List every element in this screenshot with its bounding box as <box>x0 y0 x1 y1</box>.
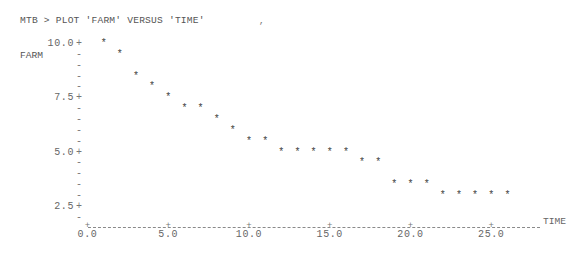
data-point: * <box>198 104 204 114</box>
y-tick-minus: - <box>76 115 82 125</box>
data-point: * <box>504 191 510 201</box>
data-point: * <box>311 148 317 158</box>
x-tick-label: 0.0 <box>78 230 98 240</box>
data-point: * <box>327 148 333 158</box>
y-tick-plus: + <box>76 39 82 49</box>
data-point: * <box>472 191 478 201</box>
data-point: * <box>359 158 365 168</box>
data-point: * <box>278 148 284 158</box>
y-tick-label: 2.5 <box>40 202 74 212</box>
y-tick-minus: - <box>76 158 82 168</box>
data-point: * <box>343 148 349 158</box>
data-point: * <box>488 191 494 201</box>
data-point: * <box>214 115 220 125</box>
y-tick-plus: + <box>76 202 82 212</box>
data-point: * <box>407 180 413 190</box>
y-tick-minus: - <box>76 61 82 71</box>
x-axis-label: TIME <box>543 217 566 227</box>
y-tick-plus: + <box>76 148 82 158</box>
y-axis-label: FARM <box>20 51 43 61</box>
y-tick-plus: + <box>76 93 82 103</box>
y-tick-minus: - <box>76 169 82 179</box>
y-tick-minus: - <box>76 191 82 201</box>
data-point: * <box>230 126 236 136</box>
x-tick-label: 5.0 <box>158 230 178 240</box>
data-point: * <box>117 50 123 60</box>
x-axis-line <box>88 227 540 228</box>
x-tick-label: 25.0 <box>478 230 504 240</box>
data-point: * <box>294 148 300 158</box>
x-tick-label: 20.0 <box>397 230 423 240</box>
command-line: MTB > PLOT 'FARM' VERSUS 'TIME' <box>20 16 205 26</box>
data-point: * <box>246 137 252 147</box>
data-point: * <box>391 180 397 190</box>
y-tick-minus: - <box>76 180 82 190</box>
y-tick-minus: - <box>76 126 82 136</box>
y-tick-minus: - <box>76 72 82 82</box>
y-tick-label: 7.5 <box>40 93 74 103</box>
data-point: * <box>440 191 446 201</box>
y-tick-minus: - <box>76 104 82 114</box>
data-point: * <box>181 104 187 114</box>
x-tick-label: 10.0 <box>236 230 262 240</box>
y-tick-minus: - <box>76 82 82 92</box>
data-point: * <box>149 82 155 92</box>
data-point: * <box>456 191 462 201</box>
y-tick-minus: - <box>76 137 82 147</box>
data-point: * <box>424 180 430 190</box>
data-point: * <box>262 137 268 147</box>
y-tick-minus: - <box>76 50 82 60</box>
data-point: * <box>101 39 107 49</box>
stray-mark: , <box>259 17 264 26</box>
data-point: * <box>165 93 171 103</box>
y-tick-label: 5.0 <box>40 148 74 158</box>
y-tick-minus: - <box>76 213 82 223</box>
data-point: * <box>375 158 381 168</box>
y-tick-label: 10.0 <box>40 39 74 49</box>
x-tick-label: 15.0 <box>317 230 343 240</box>
data-point: * <box>133 72 139 82</box>
